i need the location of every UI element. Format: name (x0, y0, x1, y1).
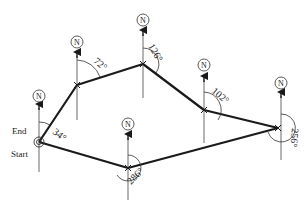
bearing-label-72: 72° (92, 55, 110, 72)
north-meridian-d: N (198, 59, 210, 143)
bearing-label-256: 256° (288, 128, 301, 148)
north-label: N (36, 92, 42, 101)
north-label: N (201, 61, 207, 70)
diagram-svg: N N N N N N (0, 0, 307, 211)
bearing-label-126: 126° (146, 42, 165, 64)
north-label: N (74, 38, 80, 47)
north-meridian-b: N (71, 36, 83, 120)
bearing-arcs (39, 48, 295, 181)
north-label: N (140, 16, 146, 25)
north-meridian-f: N (122, 118, 134, 200)
north-meridian-a: N (33, 90, 45, 172)
bearing-label-34: 34° (51, 126, 69, 143)
north-label: N (125, 120, 131, 129)
end-label: End (12, 126, 27, 136)
station-markers (34, 61, 281, 171)
traverse-path (39, 64, 278, 168)
bearing-label-102: 102° (210, 85, 232, 106)
north-meridian-e: N (275, 77, 287, 160)
north-meridian-c: N (137, 14, 149, 98)
north-label: N (278, 79, 284, 88)
traverse-diagram: N N N N N N (0, 0, 307, 211)
start-label: Start (11, 149, 28, 159)
